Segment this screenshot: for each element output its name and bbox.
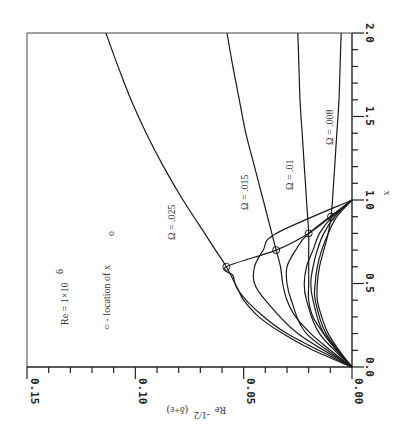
svg-text:o: o [105,231,116,236]
svg-text:6: 6 [54,269,65,274]
y-tick-label-0.10: 0.10 [136,378,149,405]
chart: 0.0 0.5 1.0 1.5 2.0 x 0.00 0.05 0.10 0.1… [0,0,409,435]
curves [106,33,352,367]
y-tick-label-0.15: 0.15 [28,378,41,405]
x-axis-ticks [352,33,364,367]
x-tick-label-0.0: 0.0 [363,357,376,377]
svg-text:-1/2: -1/2 [194,410,210,421]
y-tick-label-0.05: 0.05 [244,378,257,405]
svg-text:○ - location of x: ○ - location of x [101,265,112,330]
svg-text:(δ+ε): (δ+ε) [167,404,188,416]
label-omega-008: Ω = .008 [324,109,335,145]
series-curve-0 [106,33,352,367]
y-axis-ticks [27,367,352,379]
label-omega-025: Ω = .025 [166,204,177,240]
svg-text:Re: Re [214,405,226,416]
legend-location-xo: ○ - location of x o [101,231,116,330]
y-axis-label: Re -1/2 (δ+ε) [167,404,226,421]
label-omega-015: Ω = .015 [239,174,250,210]
re-annotation: Re = 1×10 6 [54,269,70,325]
label-omega-01: Ω = .01 [284,159,295,190]
svg-text:Re = 1×10: Re = 1×10 [59,283,70,325]
series-curve-3 [317,33,352,367]
x-tick-label-2.0: 2.0 [363,23,376,43]
x-tick-label-1.0: 1.0 [363,190,376,210]
x-tick-label-1.5: 1.5 [363,106,376,126]
y-tick-label-0.00: 0.00 [352,378,365,405]
x-tick-label-0.5: 0.5 [363,273,376,293]
series-curve-2 [298,33,352,367]
x-axis-label: x [382,191,393,196]
